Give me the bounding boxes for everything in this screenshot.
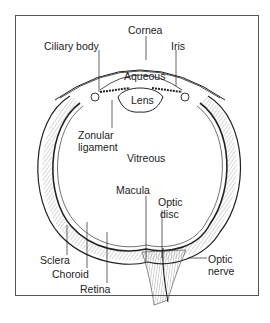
label-optic-disc-line2: disc [160, 208, 179, 220]
label-lens: Lens [131, 94, 154, 106]
label-zonular-ligament-line1: Zonular [78, 129, 114, 141]
label-optic-nerve-line2: nerve [208, 265, 234, 277]
label-zonular-ligament-line2: ligament [78, 141, 118, 153]
label-retina: Retina [80, 283, 110, 295]
label-sclera: Sclera [40, 254, 70, 266]
retina-shape [57, 106, 222, 247]
choroid-shape [53, 103, 227, 251]
label-vitreous: Vitreous [127, 152, 165, 164]
sclera-shape [38, 96, 241, 264]
optic-nerve-shape [142, 248, 186, 305]
label-optic-nerve-line1: Optic [208, 253, 233, 265]
label-optic-disc-line1: Optic [158, 196, 183, 208]
label-cornea: Cornea [128, 24, 162, 36]
label-aqueous: Aqueous [124, 70, 165, 82]
label-iris: Iris [171, 40, 185, 52]
label-choroid: Choroid [52, 268, 89, 280]
label-macula: Macula [116, 184, 150, 196]
label-ciliary-body: Ciliary body [44, 40, 99, 52]
